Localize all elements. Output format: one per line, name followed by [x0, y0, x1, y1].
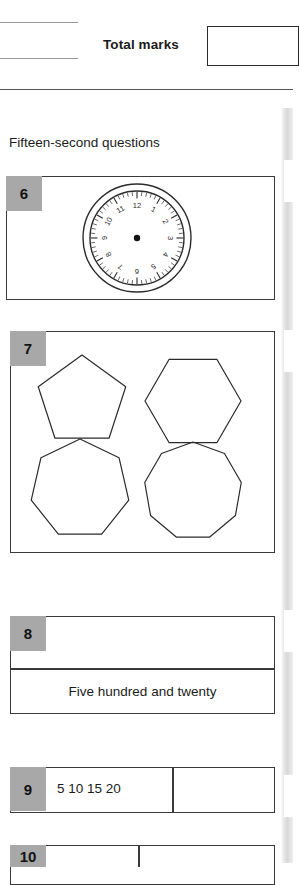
clock-face-icon: 121234567891011 — [81, 182, 193, 294]
section-title: Fifteen-second questions — [9, 135, 160, 150]
page-edge-notch-3 — [284, 610, 293, 652]
page-edge-notch-2 — [284, 330, 293, 372]
question-10-number: 10 — [10, 845, 46, 867]
polygon-pentagon — [38, 355, 126, 438]
polygons-svg — [10, 331, 275, 553]
question-8-prompt-text: Five hundred and twenty — [10, 668, 275, 714]
page-edge-notch-4 — [284, 775, 293, 817]
polygon-group — [10, 331, 275, 553]
ruled-line-bottom — [0, 58, 78, 59]
polygon-nonagon — [145, 442, 242, 537]
clock-svg: 121234567891011 — [81, 182, 193, 294]
question-9-box[interactable] — [10, 767, 275, 813]
question-9-divider — [172, 767, 174, 813]
svg-text:6: 6 — [135, 267, 139, 276]
question-9-number: 9 — [10, 767, 46, 811]
question-9-sequence: 5 10 15 20 — [57, 781, 121, 796]
svg-text:12: 12 — [133, 201, 141, 210]
page-edge-shadow — [281, 108, 293, 863]
header-divider — [0, 89, 293, 90]
total-marks-box[interactable] — [207, 26, 299, 66]
question-8-number: 8 — [10, 616, 46, 651]
polygon-heptagon — [31, 439, 129, 534]
question-10-box[interactable] — [10, 845, 275, 885]
total-marks-label: Total marks — [103, 37, 179, 52]
question-6-number: 6 — [6, 176, 42, 211]
svg-text:9: 9 — [100, 236, 109, 240]
polygon-hexagon — [145, 359, 241, 442]
question-10-divider — [138, 845, 140, 867]
svg-text:3: 3 — [166, 236, 175, 240]
ruled-line-top — [0, 22, 78, 23]
page-edge-notch-1 — [284, 160, 293, 202]
